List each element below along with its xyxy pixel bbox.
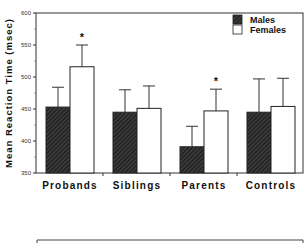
- bar-parents-males: [180, 147, 204, 173]
- x-category-label: Parents: [181, 180, 226, 191]
- legend-label-males: Males: [250, 15, 275, 25]
- bar-probands-males: [46, 107, 70, 173]
- y-tick-label: 600: [21, 10, 32, 16]
- x-axis: ProbandsSiblingsParentsControls: [42, 173, 296, 191]
- x-category-label: Controls: [246, 180, 297, 191]
- bar-controls-males: [247, 112, 271, 173]
- y-tick-label: 550: [21, 42, 32, 48]
- significance-marker: *: [80, 31, 85, 43]
- bar-controls-females: [271, 106, 295, 173]
- x-category-label: Siblings: [113, 180, 162, 191]
- legend: Males Females: [233, 15, 286, 35]
- bar-siblings-males: [113, 112, 137, 173]
- y-tick-label: 400: [21, 138, 32, 144]
- x-category-label: Probands: [42, 180, 98, 191]
- significance-marker: *: [214, 75, 219, 87]
- bar-siblings-females: [137, 108, 161, 173]
- y-axis: 350400450500550600: [21, 10, 36, 176]
- bar-parents-females: [204, 111, 228, 173]
- y-tick-label: 500: [21, 74, 32, 80]
- y-axis-title: Mean Reaction Time (msec): [3, 18, 14, 168]
- chart-canvas: 350400450500550600 Mean Reaction Time (m…: [0, 0, 307, 243]
- bar-probands-females: [70, 67, 94, 173]
- legend-label-females: Females: [250, 25, 286, 35]
- legend-swatch-males: [233, 15, 242, 24]
- y-tick-label: 450: [21, 106, 32, 112]
- bars: **: [46, 31, 295, 173]
- legend-swatch-females: [233, 25, 242, 34]
- y-tick-label: 350: [21, 170, 32, 176]
